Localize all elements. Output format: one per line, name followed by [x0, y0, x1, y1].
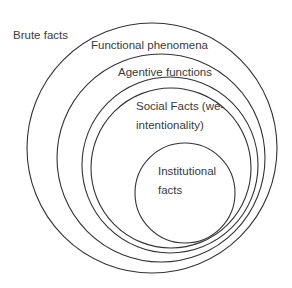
label-line: facts — [158, 181, 216, 200]
label-line: Social Facts (we- — [136, 97, 224, 116]
label-line: Functional phenomena — [91, 39, 208, 51]
label-line: Institutional — [158, 162, 216, 181]
label-institutional-facts: Institutional facts — [158, 162, 216, 200]
label-line: Agentive functions — [118, 66, 212, 78]
label-brute-facts: Brute facts — [13, 26, 68, 45]
label-line: Brute facts — [13, 29, 68, 41]
label-social-facts: Social Facts (we- intentionality) — [136, 97, 224, 135]
circle-functional-phenomena — [57, 54, 265, 262]
label-functional-phenomena: Functional phenomena — [91, 36, 208, 55]
circle-brute-facts — [27, 23, 277, 273]
label-agentive-functions: Agentive functions — [118, 63, 212, 82]
label-line: intentionality) — [136, 116, 224, 135]
